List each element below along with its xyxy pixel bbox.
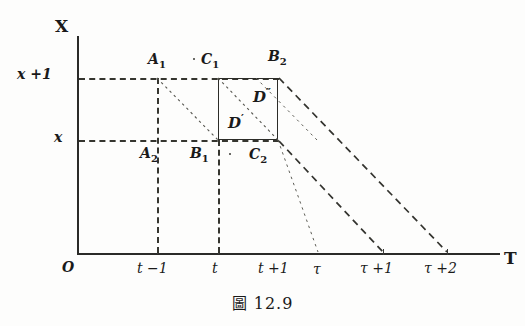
guide-line-t bbox=[218, 140, 220, 253]
point-label-c2: C2 bbox=[249, 146, 267, 165]
y-axis-title: X bbox=[55, 16, 68, 36]
diagonal-b2-long bbox=[279, 78, 447, 252]
point-label-b2-subscript: 2 bbox=[280, 56, 287, 67]
x-tick-label-t: t bbox=[212, 260, 218, 276]
scan-dot-near-b1 bbox=[229, 153, 231, 155]
x-tick-mark-tau-plus-1 bbox=[383, 249, 384, 255]
figure-caption-number: 12.9 bbox=[254, 294, 294, 313]
guide-line-t-minus-1 bbox=[157, 78, 159, 253]
x-axis-line bbox=[78, 253, 500, 255]
point-label-b2: B2 bbox=[268, 48, 287, 67]
point-label-a2: A2 bbox=[140, 145, 158, 164]
point-label-a1: A1 bbox=[148, 51, 166, 70]
point-label-b1-subscript: 1 bbox=[202, 153, 209, 164]
point-label-a2-letter: A bbox=[140, 145, 151, 161]
point-label-c2-subscript: 2 bbox=[260, 154, 267, 165]
region-label-d-prime-letter: D bbox=[228, 114, 241, 132]
diagonal-a1-b1 bbox=[157, 78, 218, 140]
x-tick-label-tau: τ bbox=[313, 261, 321, 277]
x-tick-label-tau-plus-2: τ +2 bbox=[424, 260, 457, 276]
y-axis-line bbox=[77, 36, 79, 255]
diagonal-c2-to-axis bbox=[278, 140, 318, 252]
figure-caption: 圖 12.9 bbox=[0, 292, 525, 313]
point-label-b1: B1 bbox=[190, 145, 209, 164]
point-label-c1-subscript: 1 bbox=[212, 59, 219, 70]
y-tick-label-x: x bbox=[54, 129, 62, 145]
figure-caption-symbol: 圖 bbox=[232, 295, 248, 313]
x-axis-title: T bbox=[504, 248, 517, 268]
region-label-d-double-prime-mark: ″ bbox=[266, 86, 271, 99]
region-label-d-double-prime-letter: D bbox=[253, 88, 266, 106]
point-label-a2-subscript: 2 bbox=[151, 153, 158, 164]
origin-label: O bbox=[62, 259, 74, 275]
diagonal-c2-long bbox=[279, 141, 383, 252]
scan-dot-near-c1 bbox=[193, 58, 195, 60]
x-tick-mark-tau-plus-2 bbox=[447, 249, 448, 255]
figure-12-9: X T x +1 x O t −1 t t +1 τ τ +1 τ +2 A1 … bbox=[0, 0, 525, 326]
point-label-c1-letter: C bbox=[201, 51, 212, 67]
point-label-c1: C1 bbox=[201, 51, 219, 70]
region-label-d-double-prime: D″ bbox=[253, 86, 271, 106]
region-label-d-prime: D′ bbox=[228, 112, 244, 132]
y-tick-label-x-plus-1: x +1 bbox=[17, 66, 52, 82]
region-label-d-prime-mark: ′ bbox=[241, 112, 244, 125]
point-label-b2-letter: B bbox=[268, 48, 280, 64]
point-label-b1-letter: B bbox=[190, 145, 202, 161]
x-tick-label-t-plus-1: t +1 bbox=[258, 260, 289, 276]
point-label-a1-letter: A bbox=[148, 51, 159, 67]
point-label-a1-subscript: 1 bbox=[159, 59, 166, 70]
x-tick-label-t-minus-1: t −1 bbox=[137, 260, 168, 276]
guide-line-x bbox=[79, 140, 279, 142]
x-tick-label-tau-plus-1: τ +1 bbox=[360, 260, 393, 276]
point-label-c2-letter: C bbox=[249, 146, 260, 162]
